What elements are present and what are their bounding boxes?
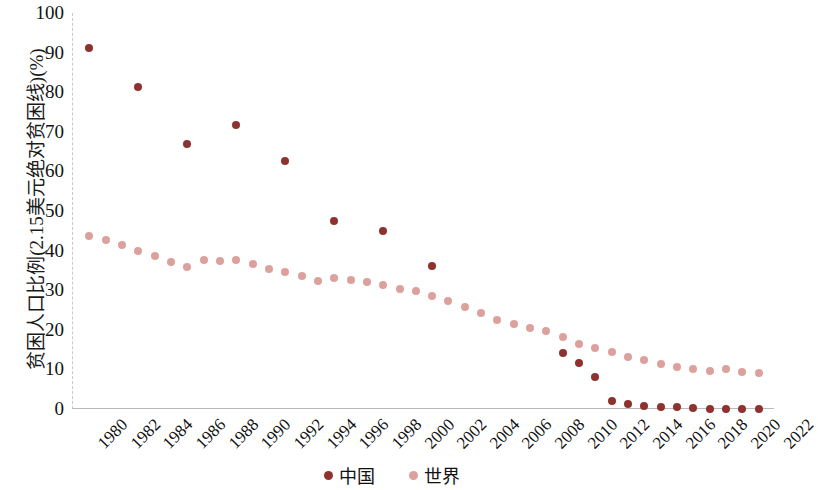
- chart-legend: 中国世界: [0, 462, 784, 488]
- x-tick-label: 1996: [355, 415, 393, 453]
- legend-marker-icon: [409, 471, 418, 480]
- x-tick-label: 1994: [323, 415, 361, 453]
- x-tick-label: 2010: [584, 415, 622, 453]
- x-tick-label: 2006: [518, 415, 556, 453]
- legend-item[interactable]: 中国: [324, 462, 375, 488]
- x-tick-label: 1992: [290, 415, 328, 453]
- x-tick-label: 2008: [551, 415, 589, 453]
- x-tick-label: 2014: [649, 415, 687, 453]
- x-tick-label: 1988: [225, 415, 263, 453]
- legend-item[interactable]: 世界: [409, 462, 460, 488]
- x-tick-label: 2022: [780, 415, 818, 453]
- x-tick-label: 2020: [747, 415, 785, 453]
- x-tick-label: 1986: [192, 415, 230, 453]
- x-tick-label: 2000: [420, 415, 458, 453]
- x-tick-label: 2012: [616, 415, 654, 453]
- x-tick-label: 1998: [388, 415, 426, 453]
- x-tick-label: 2016: [682, 415, 720, 453]
- x-tick-label: 2002: [453, 415, 491, 453]
- legend-label: 世界: [424, 462, 460, 488]
- x-tick-label: 1990: [257, 415, 295, 453]
- x-tick-label: 1982: [127, 415, 165, 453]
- x-tick-label: 1984: [159, 415, 197, 453]
- legend-marker-icon: [324, 471, 333, 480]
- x-tick-label: 2018: [714, 415, 752, 453]
- x-tick-label: 2004: [486, 415, 524, 453]
- x-tick-label: 1980: [94, 415, 132, 453]
- legend-label: 中国: [339, 462, 375, 488]
